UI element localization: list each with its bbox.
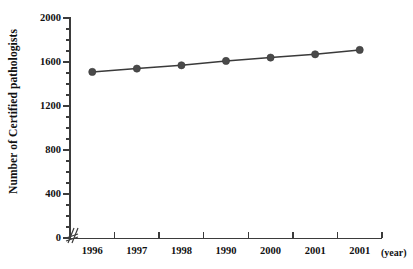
data-point xyxy=(178,62,185,69)
data-point xyxy=(222,57,229,64)
chart-screenshot: Number of Certified pathologists 0400800… xyxy=(0,0,413,269)
data-point xyxy=(267,54,274,61)
data-point xyxy=(356,46,363,53)
data-point xyxy=(89,68,96,75)
data-point xyxy=(133,65,140,72)
series-points xyxy=(89,46,364,75)
series-layer xyxy=(0,0,413,269)
data-point xyxy=(312,51,319,58)
